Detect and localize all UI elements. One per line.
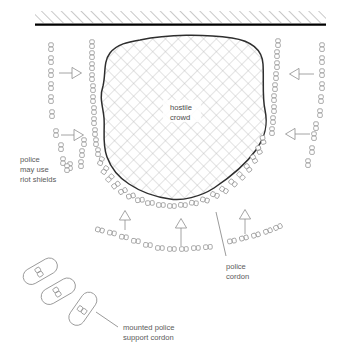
mounted-unit-1 (20, 255, 60, 287)
bottom-support-line (95, 223, 283, 251)
crowd-label-line1: hostile (170, 103, 192, 112)
crowd-control-diagram: hostile crowd (0, 0, 342, 361)
riot-shields-label-line3: riot shields (20, 175, 56, 184)
arrow-bottom-right (239, 210, 250, 235)
barrier-wall (35, 11, 326, 25)
mounted-unit-2 (38, 275, 78, 307)
wall-hatch-band (35, 11, 326, 23)
arrow-bottom-centre (175, 219, 186, 247)
arrow-right-lower (286, 128, 311, 139)
arrow-bottom-left (119, 211, 130, 231)
mounted-unit-3 (66, 289, 100, 328)
riot-shields-label-line2: may use (20, 165, 49, 174)
arrow-right-upper (290, 68, 315, 79)
arrow-left-upper (59, 67, 82, 78)
crowd-label-line2: crowd (170, 113, 190, 122)
mounted-police-leader (96, 312, 118, 327)
mounted-police-group (20, 255, 100, 328)
police-cordon-leader (216, 212, 226, 256)
leader-lines (96, 212, 226, 327)
police-cordon-label-line2: cordon (226, 272, 249, 281)
riot-shields-label-line1: police (20, 155, 40, 164)
arrow-left-lower (61, 129, 84, 140)
police-cordon-label-line1: police (226, 262, 246, 271)
right-reserve-column (306, 43, 325, 168)
diagram-canvas: hostile crowd (0, 0, 342, 361)
mounted-police-label-line2: support cordon (123, 333, 174, 342)
mounted-police-label-line1: mounted police (123, 323, 175, 332)
left-reserve-column (49, 43, 70, 173)
